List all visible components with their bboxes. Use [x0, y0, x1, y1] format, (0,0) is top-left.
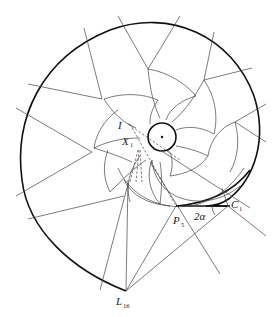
svg-text:L: L: [115, 295, 122, 307]
svg-text:1: 1: [239, 205, 242, 212]
impeller-blades: [94, 69, 238, 206]
label-C1: C 1: [231, 198, 242, 212]
svg-text:I: I: [117, 119, 123, 131]
svg-text:C: C: [231, 198, 239, 210]
svg-text:5: 5: [181, 221, 184, 228]
svg-text:1: 1: [130, 141, 133, 148]
label-X1: X 1: [121, 135, 133, 148]
svg-text:2α: 2α: [194, 210, 206, 222]
label-angle-2alpha: 2α: [194, 210, 206, 222]
construction-arc-inner: [152, 160, 240, 201]
svg-text:P: P: [172, 214, 180, 226]
label-P5: P 5: [172, 214, 184, 228]
label-I: I: [117, 119, 123, 131]
angle-arc: [212, 206, 215, 215]
volute-diagram: I X 1 P 5 C 1 L 16 2α: [0, 0, 278, 317]
svg-text:16: 16: [123, 302, 130, 309]
svg-text:X: X: [121, 135, 130, 147]
label-L16: L 16: [115, 295, 130, 309]
hub-center-dot: [161, 136, 163, 138]
tangent-rays: [16, 16, 266, 290]
